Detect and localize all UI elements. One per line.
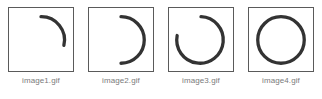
arc-quarter-icon: [41, 17, 65, 46]
frame-caption: image4.gif: [262, 76, 300, 86]
frame-item: image3.gif: [168, 7, 234, 86]
circle-full-icon: [258, 17, 305, 64]
frame-item: image2.gif: [88, 7, 154, 86]
arc-three-quarter-icon: [177, 17, 224, 64]
frame-caption: image3.gif: [182, 76, 220, 86]
frame-item: image4.gif: [248, 7, 314, 86]
arc-half-icon: [121, 17, 144, 64]
frame-thumbnail-4: [248, 7, 314, 72]
image-frame-sequence: image1.gif image2.gif image3.gif image4.…: [0, 0, 322, 86]
frame-thumbnail-2: [88, 7, 154, 72]
frame-thumbnail-3: [168, 7, 234, 72]
frame-item: image1.gif: [8, 7, 74, 86]
frame-caption: image1.gif: [22, 76, 60, 86]
frame-caption: image2.gif: [102, 76, 140, 86]
frame-thumbnail-1: [8, 7, 74, 72]
